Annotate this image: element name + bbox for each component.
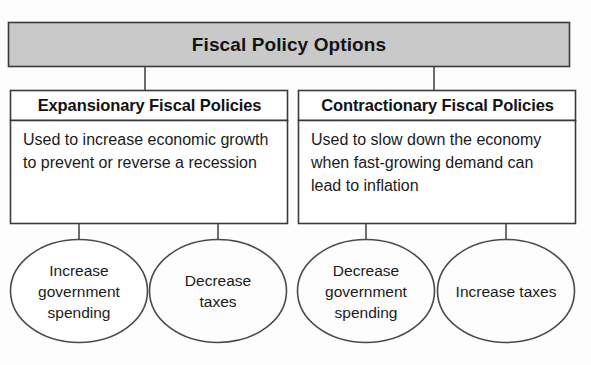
option-label-decrease-taxes: Decrease taxes [166,250,270,332]
fiscal-policy-diagram: Fiscal Policy Options Expansionary Fisca… [0,0,591,365]
diagram-title: Fiscal Policy Options [8,22,570,67]
contractionary-heading: Contractionary Fiscal Policies [299,90,576,121]
option-label-decrease-government-spending: Decrease government spending [311,250,421,332]
contractionary-description: Used to slow down the economy when fast-… [299,124,576,223]
option-label-increase-government-spending: Increase government spending [24,250,134,332]
expansionary-description: Used to increase economic growth to prev… [11,124,288,223]
diagram-text-layer: Fiscal Policy Options Expansionary Fisca… [0,0,591,365]
expansionary-heading: Expansionary Fiscal Policies [11,90,288,121]
option-label-increase-taxes: Increase taxes [454,250,558,332]
